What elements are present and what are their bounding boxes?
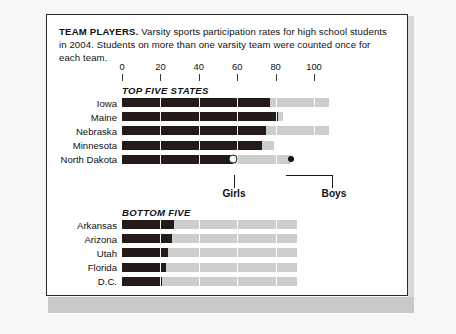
gridline — [160, 248, 161, 257]
gridline — [276, 277, 277, 286]
gridline — [276, 220, 277, 229]
gridline — [237, 263, 238, 272]
gridline — [237, 126, 238, 135]
x-tick-mark — [276, 74, 277, 81]
gridline — [237, 234, 238, 243]
x-tick-label: 60 — [232, 61, 242, 72]
gridline — [160, 155, 161, 164]
gridline — [199, 141, 200, 150]
boys-marker-dot — [288, 156, 294, 162]
bar-row: Maine — [122, 112, 283, 121]
gridline — [237, 220, 238, 229]
bar-girls — [122, 220, 174, 229]
row-label: Arkansas — [77, 219, 117, 230]
row-label: North Dakota — [60, 154, 117, 165]
x-tick-mark — [122, 74, 123, 81]
row-label: Florida — [88, 262, 117, 273]
gridline — [237, 112, 238, 121]
gridline — [276, 112, 277, 121]
figure-page: TEAM PLAYERS. Varsity sports participati… — [0, 0, 456, 334]
gridline — [160, 126, 161, 135]
boys-leader-vertical — [332, 175, 333, 188]
gridline — [199, 155, 200, 164]
x-tick-mark — [314, 74, 315, 81]
gridline — [160, 220, 161, 229]
row-label: Maine — [91, 111, 117, 122]
row-label: Nebraska — [76, 125, 117, 136]
x-tick-mark — [199, 74, 200, 81]
bar-row: Nebraska — [122, 126, 329, 135]
bar-row: Minnesota — [122, 141, 274, 150]
gridline — [237, 141, 238, 150]
gridline — [199, 248, 200, 257]
row-label: Utah — [97, 247, 117, 258]
girls-leader-vertical — [234, 175, 235, 188]
gridline — [276, 155, 277, 164]
bar-girls — [122, 234, 172, 243]
gridline — [314, 126, 315, 135]
gridline — [276, 234, 277, 243]
x-tick-label: 40 — [194, 61, 204, 72]
bar-row: Florida — [122, 263, 297, 272]
bar-girls — [122, 126, 266, 135]
bar-row: North Dakota — [122, 155, 291, 164]
gridline — [160, 234, 161, 243]
bar-row: D.C. — [122, 277, 297, 286]
x-tick-mark — [237, 74, 238, 81]
gridline — [237, 98, 238, 107]
bar-girls — [122, 98, 270, 107]
x-tick-label: 100 — [306, 61, 322, 72]
plot-area: 020406080100 TOP FIVE STATES IowaMaineNe… — [47, 15, 409, 297]
bar-girls — [122, 155, 233, 164]
row-label: Iowa — [97, 97, 117, 108]
row-label: Minnesota — [73, 140, 117, 151]
gridline — [199, 112, 200, 121]
gridline — [199, 277, 200, 286]
x-axis: 020406080100 — [47, 61, 409, 83]
bar-row: Iowa — [122, 98, 329, 107]
callout-girls: Girls — [222, 188, 245, 199]
gridline — [199, 263, 200, 272]
gridline — [160, 141, 161, 150]
callout-boys: Boys — [322, 188, 347, 199]
gridline — [276, 248, 277, 257]
gridline — [314, 98, 315, 107]
gridline — [199, 98, 200, 107]
x-tick-label: 20 — [155, 61, 165, 72]
row-label: Arizona — [84, 233, 117, 244]
section-title-top: TOP FIVE STATES — [122, 85, 209, 96]
x-tick-mark — [160, 74, 161, 81]
bar-girls — [122, 141, 262, 150]
x-tick-label: 80 — [270, 61, 280, 72]
gridline — [276, 98, 277, 107]
section-title-bottom: BOTTOM FIVE — [122, 207, 191, 218]
x-tick-label: 0 — [119, 61, 124, 72]
gridline — [160, 112, 161, 121]
gridline — [237, 277, 238, 286]
bar-row: Utah — [122, 248, 297, 257]
gridline — [199, 220, 200, 229]
gridline — [160, 263, 161, 272]
bar-girls — [122, 277, 162, 286]
panel-shadow-bottom — [48, 297, 414, 313]
gridline — [199, 234, 200, 243]
boys-leader-horizontal — [286, 175, 333, 176]
gridline — [199, 126, 200, 135]
gridline — [160, 98, 161, 107]
bar-row: Arkansas — [122, 220, 297, 229]
gridline — [237, 248, 238, 257]
bar-row: Arizona — [122, 234, 297, 243]
gridline — [276, 126, 277, 135]
row-label: D.C. — [98, 276, 117, 287]
chart-panel: TEAM PLAYERS. Varsity sports participati… — [46, 14, 408, 296]
girls-marker-dot — [229, 155, 238, 164]
gridline — [276, 263, 277, 272]
gridline — [160, 277, 161, 286]
